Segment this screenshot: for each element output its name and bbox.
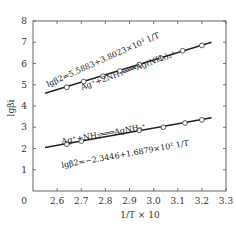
x-tick-label: 2.8: [98, 196, 113, 206]
y-tick-label: 2: [21, 144, 27, 154]
y-tick-label: 1: [21, 165, 27, 175]
data-point: [199, 117, 204, 122]
x-tick-label: 2.7: [74, 196, 89, 206]
data-point: [199, 43, 204, 48]
x-tick-label: 3.2: [195, 196, 209, 206]
y-tick-label: 4: [21, 101, 27, 111]
reaction-label: Ag⁺+2NH₃═══Ag(NH₃)₂⁺: [79, 49, 177, 92]
data-series: lgβ2=5.5883+3.8023×10³ 1/TAg⁺+2NH₃═══Ag(…: [45, 30, 211, 169]
series-1: lgβ2=5.5883+3.8023×10³ 1/TAg⁺+2NH₃═══Ag(…: [45, 30, 211, 93]
y-tick-label: 6: [21, 59, 27, 69]
y-tick-label: 7: [21, 37, 27, 47]
data-point: [161, 125, 166, 130]
chart: 2.62.72.82.93.03.13.23.3123456780 lgβ2=5…: [0, 0, 236, 227]
data-point: [180, 48, 185, 53]
origin-label: 0: [21, 196, 27, 206]
reaction-label: Ag⁺+NH₃═══AgNH₃⁺: [60, 122, 147, 146]
x-tick-label: 3.0: [146, 196, 161, 206]
y-axis-label: lgβi: [6, 100, 16, 117]
x-tick-label: 3.1: [171, 196, 185, 206]
x-tick-label: 3.3: [219, 196, 234, 206]
y-tick-label: 3: [21, 122, 27, 132]
series-2: lgβ2=−2.3446+1.6879×10² 1/TAg⁺+NH₃═══AgN…: [45, 117, 211, 170]
x-axis-label: 1/T × 10: [120, 210, 160, 220]
x-tick-label: 2.9: [122, 196, 137, 206]
y-tick-label: 8: [21, 16, 27, 26]
data-point: [64, 85, 69, 90]
y-tick-label: 5: [21, 80, 27, 90]
data-point: [183, 121, 188, 126]
x-tick-label: 2.6: [50, 196, 65, 206]
